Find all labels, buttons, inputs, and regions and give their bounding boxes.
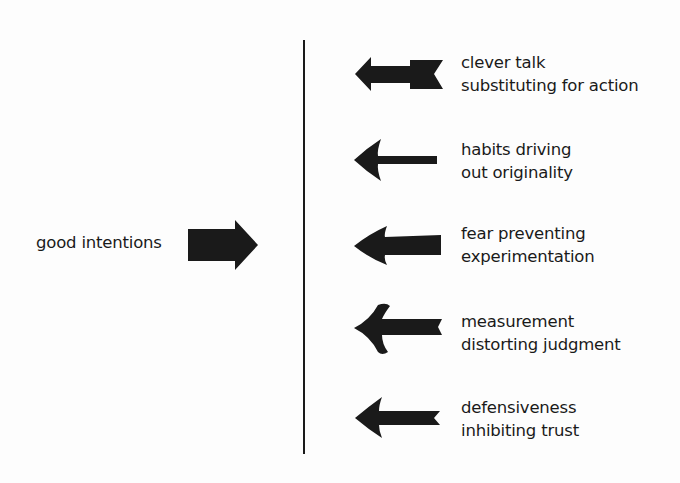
left-arrow-icon bbox=[353, 138, 441, 182]
force-label-line2: inhibiting trust bbox=[461, 419, 579, 442]
force-label-line1: defensiveness bbox=[461, 396, 579, 419]
force-label: habits driving out originality bbox=[461, 138, 573, 184]
force-label: measurement distorting judgment bbox=[461, 310, 621, 356]
force-label: clever talk substituting for action bbox=[461, 51, 638, 97]
force-label-line2: substituting for action bbox=[461, 74, 638, 97]
left-arrow-icon bbox=[352, 300, 444, 358]
source-label: good intentions bbox=[36, 232, 162, 254]
force-label-line2: out originality bbox=[461, 161, 573, 184]
force-label-line2: distorting judgment bbox=[461, 333, 621, 356]
force-label-line1: habits driving bbox=[461, 138, 573, 161]
divider-line bbox=[303, 40, 305, 454]
force-field-diagram: good intentions clever talk substituting… bbox=[0, 0, 680, 483]
left-arrow-icon bbox=[353, 226, 443, 266]
force-label-line1: measurement bbox=[461, 310, 621, 333]
left-arrow-icon bbox=[354, 56, 446, 94]
force-label-line2: experimentation bbox=[461, 245, 595, 268]
force-label-line1: fear preventing bbox=[461, 222, 595, 245]
force-label: fear preventing experimentation bbox=[461, 222, 595, 268]
force-label-line1: clever talk bbox=[461, 51, 638, 74]
left-arrow-icon bbox=[354, 397, 442, 439]
right-arrow-icon bbox=[188, 220, 260, 272]
force-label: defensiveness inhibiting trust bbox=[461, 396, 579, 442]
